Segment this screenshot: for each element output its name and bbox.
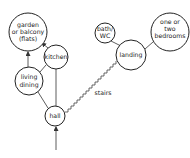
edge-living-hall (38, 92, 48, 108)
svg-text:one or: one or (160, 18, 180, 25)
node-garden: garden or balcony (flats) (9, 13, 47, 51)
svg-text:two: two (164, 25, 175, 32)
circulation-diagram: stairs garden or balcony (flats) kitchen… (0, 0, 190, 158)
svg-text:kitchen: kitchen (45, 53, 68, 60)
svg-text:bedrooms: bedrooms (155, 32, 186, 39)
svg-text:bath/: bath/ (97, 25, 114, 32)
stairs-icon (65, 61, 116, 112)
svg-text:hall: hall (49, 112, 60, 119)
svg-text:dining: dining (19, 81, 38, 89)
edge-living-kitchen (40, 65, 46, 72)
node-kitchen: kitchen (44, 45, 68, 69)
edge-landing-bedrooms (145, 42, 153, 49)
svg-text:landing: landing (120, 51, 143, 59)
svg-text:(flats): (flats) (19, 35, 37, 42)
node-hall: hall (45, 106, 65, 126)
stairs-label: stairs (95, 89, 112, 96)
node-bath-wc: bath/ WC (95, 23, 115, 43)
node-landing: landing (116, 40, 146, 70)
node-bedrooms: one or two bedrooms (151, 13, 189, 51)
svg-text:living: living (21, 73, 38, 81)
svg-text:WC: WC (100, 32, 110, 39)
node-living-dining: living dining (15, 67, 43, 95)
